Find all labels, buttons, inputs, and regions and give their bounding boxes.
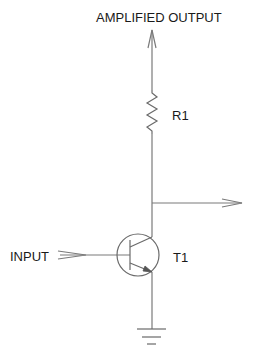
input-arrow-icon xyxy=(58,251,130,259)
resistor-label: R1 xyxy=(172,108,189,123)
amplified-output-label: AMPLIFIED OUTPUT xyxy=(96,10,222,25)
input-label: INPUT xyxy=(10,249,49,264)
circuit-diagram: AMPLIFIED OUTPUT R1 INPUT T1 xyxy=(0,0,258,363)
output-arrow-right-icon xyxy=(152,199,242,207)
output-arrow-up-icon xyxy=(148,30,156,90)
ground-icon xyxy=(137,329,166,344)
resistor-r1-symbol xyxy=(147,90,157,134)
transistor-label: T1 xyxy=(173,250,188,265)
